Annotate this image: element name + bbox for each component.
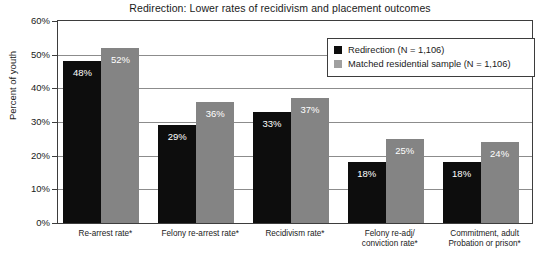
y-tick-mark: [52, 156, 57, 157]
bar-value-label: 24%: [481, 148, 519, 159]
y-tick-mark: [52, 122, 57, 123]
bar-value-label: 18%: [443, 168, 481, 179]
x-category-label: Commitment, adultProbation or prison*: [425, 229, 544, 249]
y-tick-mark: [52, 55, 57, 56]
y-tick-mark: [52, 88, 57, 89]
y-tick-label: 30%: [2, 116, 50, 127]
bar-group: 48%52%: [63, 21, 139, 223]
x-category-line: Probation or prison*: [425, 239, 544, 249]
y-tick-label: 0%: [2, 217, 50, 228]
bar[interactable]: 52%: [101, 48, 139, 223]
bar-value-label: 29%: [158, 131, 196, 142]
legend-swatch-icon: [334, 60, 342, 68]
legend-item[interactable]: Redirection (N = 1,106): [334, 43, 528, 57]
bar-value-label: 48%: [63, 67, 101, 78]
bar[interactable]: 24%: [481, 142, 519, 223]
chart-title: Redirection: Lower rates of recidivism a…: [0, 2, 560, 14]
bar-value-label: 25%: [386, 145, 424, 156]
y-tick-label: 20%: [2, 150, 50, 161]
bar-value-label: 37%: [291, 104, 329, 115]
bar-value-label: 52%: [101, 54, 139, 65]
bar[interactable]: 36%: [196, 102, 234, 223]
legend-label: Redirection (N = 1,106): [348, 45, 444, 55]
bar-group: 29%36%: [158, 21, 234, 223]
bar-chart: Redirection: Lower rates of recidivism a…: [0, 0, 560, 264]
bar[interactable]: 48%: [63, 61, 101, 223]
bar[interactable]: 33%: [253, 112, 291, 223]
y-tick-label: 50%: [2, 49, 50, 60]
legend-item[interactable]: Matched residential sample (N = 1,106): [334, 57, 528, 71]
bar-group: 33%37%: [253, 21, 329, 223]
bar[interactable]: 18%: [348, 162, 386, 223]
x-category-line: Commitment, adult: [425, 229, 544, 239]
y-tick-mark: [52, 189, 57, 190]
y-tick-label: 10%: [2, 183, 50, 194]
legend-swatch-icon: [334, 46, 342, 54]
bar-value-label: 18%: [348, 168, 386, 179]
bar-value-label: 36%: [196, 108, 234, 119]
y-tick-mark: [52, 223, 57, 224]
bar[interactable]: 37%: [291, 98, 329, 223]
bar[interactable]: 18%: [443, 162, 481, 223]
bar[interactable]: 29%: [158, 125, 196, 223]
bar-value-label: 33%: [253, 118, 291, 129]
legend-label: Matched residential sample (N = 1,106): [348, 59, 511, 69]
legend: Redirection (N = 1,106)Matched residenti…: [327, 38, 535, 77]
y-tick-label: 60%: [2, 15, 50, 26]
y-tick-mark: [52, 21, 57, 22]
bar[interactable]: 25%: [386, 139, 424, 223]
y-tick-label: 40%: [2, 82, 50, 93]
